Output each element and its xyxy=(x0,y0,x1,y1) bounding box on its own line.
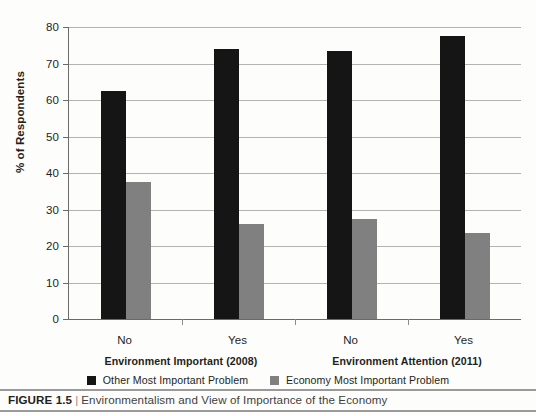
y-axis-title: % of Respondents xyxy=(14,71,26,173)
figure-number: FIGURE 1.5 xyxy=(8,393,72,406)
caption-separator: | xyxy=(72,393,81,406)
y-tick-label: 0 xyxy=(53,313,60,325)
bar xyxy=(327,51,352,319)
figure-container: % of Respondents 01020304050607080 NoYes… xyxy=(0,0,536,416)
y-tick-mark xyxy=(63,137,69,138)
y-tick-mark xyxy=(63,319,69,320)
bar xyxy=(126,182,151,319)
legend-label: Other Most Important Problem xyxy=(103,374,248,386)
y-tick-label: 70 xyxy=(46,58,59,70)
y-tick-label: 80 xyxy=(46,21,59,33)
y-tick-mark xyxy=(63,27,69,28)
figure-caption-text: Environmentalism and View of Importance … xyxy=(81,393,387,406)
y-tick-mark xyxy=(63,100,69,101)
legend-item: Economy Most Important Problem xyxy=(270,374,449,386)
y-tick-label: 60 xyxy=(46,94,59,106)
y-tick-mark xyxy=(63,210,69,211)
y-tick-label: 20 xyxy=(46,240,59,252)
x-axis-separator xyxy=(408,319,409,325)
x-axis-category-label: Yes xyxy=(454,334,473,346)
y-tick-label: 30 xyxy=(46,204,59,216)
legend-item: Other Most Important Problem xyxy=(87,374,248,386)
caption-rule-bottom xyxy=(0,410,536,412)
caption-rule-top xyxy=(0,389,536,391)
x-axis-group-label: Environment Important (2008) xyxy=(105,355,258,367)
x-axis-category-label: No xyxy=(117,334,132,346)
bar xyxy=(101,91,126,319)
y-tick-mark xyxy=(63,246,69,247)
bar xyxy=(440,36,465,319)
y-tick-mark xyxy=(63,64,69,65)
x-axis-category-label: Yes xyxy=(228,334,247,346)
plot-area: 01020304050607080 xyxy=(68,27,521,320)
chart-legend: Other Most Important ProblemEconomy Most… xyxy=(0,374,536,386)
legend-swatch-icon xyxy=(87,376,96,385)
bar xyxy=(239,224,264,319)
bar xyxy=(465,233,490,319)
y-tick-label: 40 xyxy=(46,167,59,179)
legend-swatch-icon xyxy=(270,376,279,385)
x-axis-category-label: No xyxy=(343,334,358,346)
x-axis-separator xyxy=(295,319,296,325)
bar xyxy=(352,219,377,319)
figure-caption: FIGURE 1.5|Environmentalism and View of … xyxy=(8,393,528,406)
y-tick-label: 50 xyxy=(46,131,59,143)
y-tick-mark xyxy=(63,283,69,284)
x-axis-group-label: Environment Attention (2011) xyxy=(332,355,482,367)
bar xyxy=(214,49,239,319)
x-axis-separator xyxy=(182,319,183,325)
gridline xyxy=(69,27,521,28)
y-tick-mark xyxy=(63,173,69,174)
y-tick-label: 10 xyxy=(46,277,59,289)
legend-label: Economy Most Important Problem xyxy=(286,374,449,386)
